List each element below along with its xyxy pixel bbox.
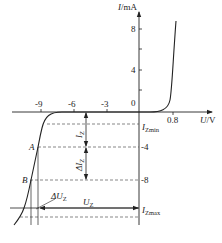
y-tick-neg4: -4: [141, 142, 149, 152]
zener-characteristic-diagram: I/mA 8 4 0 -4 -8 -9 -6 -3 0.8 U/V A B IZ…: [0, 0, 222, 243]
x-tick-neg6: -6: [68, 99, 76, 109]
x-tick-neg3: -3: [101, 99, 109, 109]
y-tick-0: 0: [131, 98, 136, 108]
delta-iz-label: ΔIZ: [74, 159, 85, 172]
delta-uz-label: ΔUZ: [50, 191, 67, 202]
forward-curve: [139, 21, 176, 112]
x-tick-0-8: 0.8: [167, 115, 179, 125]
izmax-label: IZmax: [141, 205, 161, 216]
x-tick-neg9: -9: [35, 99, 43, 109]
iz-label: IZ: [74, 131, 85, 139]
uz-label: UZ: [83, 197, 94, 208]
izmin-label: IZmin: [141, 122, 160, 133]
delta-iz-label-group: ΔIZ: [74, 159, 85, 172]
x-axis-label: U/V: [200, 115, 216, 125]
y-tick-neg8: -8: [141, 175, 149, 185]
y-tick-8: 8: [131, 24, 136, 34]
point-b-label: B: [22, 175, 28, 185]
y-tick-4: 4: [131, 65, 136, 75]
point-a-label: A: [28, 142, 35, 152]
iz-label-group: IZ: [74, 131, 85, 139]
y-axis-label: I/mA: [117, 2, 138, 12]
